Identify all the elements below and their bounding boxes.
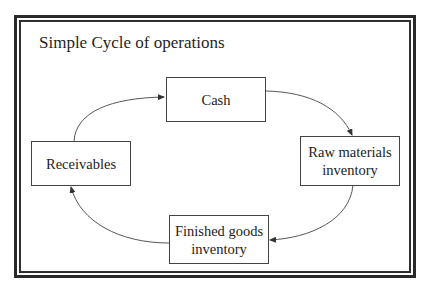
node-receivables: Receivables [31, 141, 131, 186]
arrow-finished-to-receivables [71, 187, 169, 243]
arrow-receivables-to-cash [74, 97, 164, 141]
node-cash-label: Cash [202, 91, 231, 109]
arrow-raw-to-finished [270, 185, 353, 240]
node-finished-line2: inventory [175, 240, 263, 258]
node-finished-line1: Finished goods [175, 222, 263, 240]
arrow-cash-to-raw [266, 91, 352, 135]
node-receivables-label: Receivables [46, 155, 116, 173]
node-raw-line1: Raw materials [308, 143, 391, 161]
node-cash: Cash [166, 77, 266, 122]
node-raw-materials: Raw materials inventory [300, 136, 400, 186]
node-finished-goods: Finished goods inventory [169, 215, 269, 264]
node-raw-line2: inventory [308, 161, 391, 179]
